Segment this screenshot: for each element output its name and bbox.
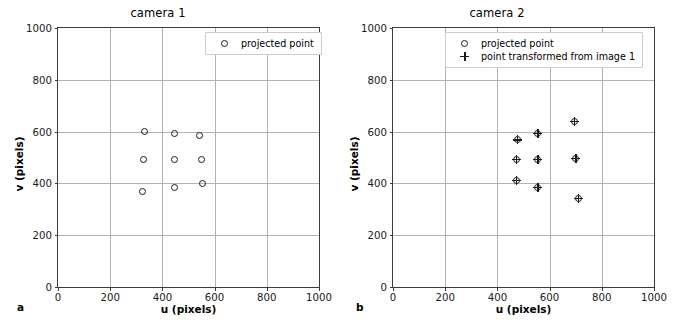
data-point-marker (169, 129, 179, 139)
data-point-marker (137, 187, 147, 197)
y-tick-label: 200 (368, 230, 387, 241)
data-point-marker (533, 154, 543, 164)
data-point-marker (512, 154, 522, 164)
y-tick-label: 1000 (361, 23, 387, 34)
x-tick (215, 287, 216, 291)
gridline-vertical (215, 28, 216, 287)
x-tick (602, 287, 603, 291)
x-tick-label: 200 (435, 292, 454, 303)
plus-marker-icon (517, 135, 518, 144)
legend-label: point transformed from image 1 (478, 51, 635, 62)
gridline-horizontal (393, 80, 654, 81)
legend-camera-1: projected point (205, 32, 322, 55)
plot-area-camera-1: 0200400600800100002004006008001000 proje… (57, 27, 320, 288)
panel-camera-1: camera 1 0200400600800100002004006008001… (0, 0, 340, 324)
x-tick-label: 400 (153, 292, 172, 303)
panel-letter-b: b (356, 301, 364, 313)
x-tick-label: 600 (540, 292, 559, 303)
y-tick (55, 235, 59, 236)
data-point-marker (139, 126, 149, 136)
y-tick-label: 200 (33, 230, 52, 241)
data-point-marker (573, 194, 583, 204)
y-tick (390, 183, 394, 184)
x-tick-label: 1000 (306, 292, 332, 303)
data-point-marker (533, 183, 543, 193)
plus-marker-icon (516, 155, 517, 164)
data-point-marker (571, 154, 581, 164)
circle-marker-icon (171, 156, 178, 163)
x-tick (497, 287, 498, 291)
gridline-vertical (110, 28, 111, 287)
circle-marker-icon (140, 156, 147, 163)
plot-area-camera-2: 0200400600800100002004006008001000 proje… (392, 27, 655, 288)
y-tick-label: 800 (33, 74, 52, 85)
data-point-marker (138, 155, 148, 165)
plus-marker-icon (574, 117, 575, 126)
panel-camera-2: camera 2 0200400600800100002004006008001… (335, 0, 675, 324)
figure: camera 1 0200400600800100002004006008001… (0, 0, 675, 324)
circle-marker-icon (452, 37, 478, 50)
gridline-vertical (162, 28, 163, 287)
y-axis-label-camera-2: v (pixels) (348, 104, 360, 224)
x-tick-label: 0 (55, 292, 61, 303)
panel-a-title: camera 1 (0, 6, 328, 20)
panel-b-title: camera 2 (327, 6, 667, 20)
plus-marker-icon (537, 155, 538, 164)
x-tick-label: 800 (592, 292, 611, 303)
y-tick (390, 28, 394, 29)
x-tick-label: 600 (205, 292, 224, 303)
plus-marker-icon (537, 129, 538, 138)
x-tick (267, 287, 268, 291)
y-tick (55, 80, 59, 81)
x-tick (110, 287, 111, 291)
data-point-marker (569, 117, 579, 127)
gridline-vertical (267, 28, 268, 287)
data-point-marker (198, 179, 208, 189)
x-tick-label: 0 (390, 292, 396, 303)
x-tick-label: 200 (100, 292, 119, 303)
gridline-horizontal (58, 80, 319, 81)
gridline-horizontal (58, 183, 319, 184)
circle-marker-icon (139, 188, 146, 195)
y-tick (55, 287, 59, 288)
data-point-marker (194, 131, 204, 141)
y-tick-label: 600 (33, 126, 52, 137)
circle-marker-icon (141, 128, 148, 135)
gridline-horizontal (393, 235, 654, 236)
plus-marker-icon (452, 50, 478, 63)
y-tick-label: 0 (381, 282, 387, 293)
y-tick-label: 400 (368, 178, 387, 189)
circle-marker-icon (196, 132, 203, 139)
plus-marker-icon (578, 194, 579, 203)
data-point-marker (170, 154, 180, 164)
x-axis-label-camera-1: u (pixels) (57, 303, 320, 315)
x-tick (654, 287, 655, 291)
plus-marker-icon (516, 176, 517, 185)
data-point-marker (533, 129, 543, 139)
circle-marker-icon (199, 180, 206, 187)
panel-letter-a: a (17, 301, 24, 313)
x-tick (550, 287, 551, 291)
y-tick-label: 800 (368, 74, 387, 85)
circle-marker-icon (171, 184, 178, 191)
legend-entry: projected point (212, 37, 314, 50)
y-tick (390, 235, 394, 236)
data-point-marker (512, 135, 522, 145)
y-tick-label: 1000 (26, 23, 52, 34)
x-tick (162, 287, 163, 291)
circle-marker-icon (198, 156, 205, 163)
gridline-horizontal (58, 132, 319, 133)
x-axis-label-camera-2: u (pixels) (392, 303, 655, 315)
x-tick (445, 287, 446, 291)
x-tick (58, 287, 59, 291)
x-tick (393, 287, 394, 291)
gridline-horizontal (393, 183, 654, 184)
circle-marker-icon (212, 37, 238, 50)
y-tick-label: 600 (368, 126, 387, 137)
circle-marker-icon (171, 130, 178, 137)
data-point-marker (170, 183, 180, 193)
legend-label: projected point (238, 38, 314, 49)
x-tick-label: 1000 (641, 292, 667, 303)
y-tick (55, 183, 59, 184)
gridline-horizontal (393, 132, 654, 133)
